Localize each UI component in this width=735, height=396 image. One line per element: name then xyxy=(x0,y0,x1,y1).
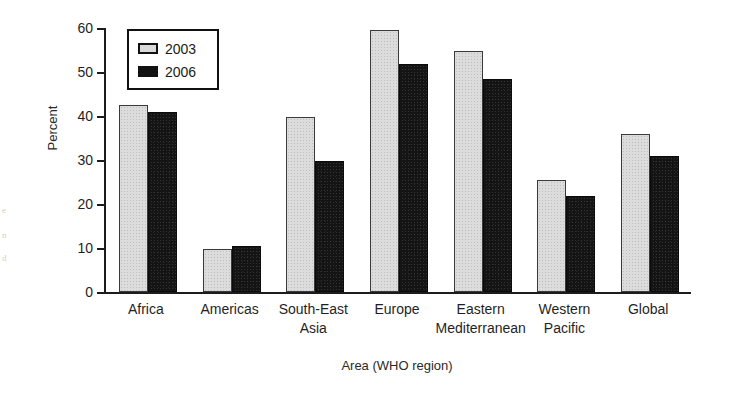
legend-label: 2003 xyxy=(165,42,196,56)
scan-edge-artifacts: e n d xyxy=(2,205,18,310)
category-label-line: Asia xyxy=(261,319,365,338)
legend-entry-2006: 2006 xyxy=(138,60,217,83)
bar xyxy=(399,64,428,292)
bar xyxy=(286,117,315,292)
y-axis-tick-label: 0 xyxy=(85,284,93,300)
bar xyxy=(454,51,483,292)
bar xyxy=(537,180,566,292)
y-axis-tick-label: 60 xyxy=(77,20,93,36)
bar xyxy=(232,246,261,292)
edge-mark: d xyxy=(2,253,18,264)
legend-swatch-icon xyxy=(138,43,158,54)
bar xyxy=(203,249,232,292)
legend-swatch-icon xyxy=(138,66,158,77)
bar xyxy=(650,156,679,292)
legend-label: 2006 xyxy=(165,65,196,79)
y-axis-tick-label: 50 xyxy=(77,64,93,80)
legend-entry-2003: 2003 xyxy=(138,37,217,60)
y-axis-tick-label: 10 xyxy=(77,240,93,256)
bar xyxy=(148,112,177,292)
chart-legend: 2003 2006 xyxy=(127,29,219,90)
bar xyxy=(483,79,512,292)
category-label-line: Global xyxy=(596,300,700,319)
bar xyxy=(370,30,399,292)
bar xyxy=(621,134,650,292)
bar xyxy=(315,161,344,292)
x-axis-label: Area (WHO region) xyxy=(104,358,690,373)
bar xyxy=(566,196,595,292)
y-axis-tick-label: 20 xyxy=(77,196,93,212)
x-axis-category-labels: AfricaAmericasSouth-EastAsiaEuropeEaster… xyxy=(104,300,690,348)
category-label-line: Pacific xyxy=(513,319,617,338)
edge-mark: n xyxy=(2,230,18,241)
y-axis-tick-label: 30 xyxy=(77,152,93,168)
edge-mark: e xyxy=(2,205,18,216)
bar xyxy=(119,105,148,292)
x-axis-category-label: Global xyxy=(596,300,700,319)
y-axis-tick-label: 40 xyxy=(77,108,93,124)
bar-chart-figure: e n d Percent 0102030405060 2003 2006 Af… xyxy=(0,0,735,396)
y-axis-label: Percent xyxy=(45,73,60,183)
